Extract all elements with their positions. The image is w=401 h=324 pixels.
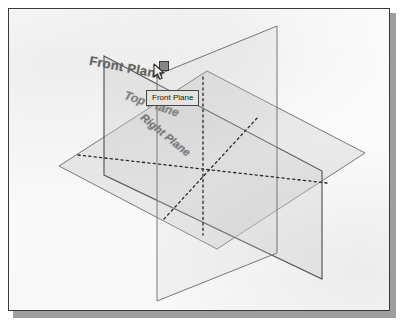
plane-tooltip: Front Plane — [146, 90, 199, 106]
planes-scene — [9, 9, 390, 311]
plane-right[interactable] — [157, 26, 277, 301]
cad-viewport[interactable]: Front Plane Top Plane Right Plane Front … — [9, 9, 389, 310]
arrow-cursor-icon — [153, 63, 167, 81]
cad-viewport-frame: Front Plane Top Plane Right Plane Front … — [8, 8, 390, 311]
screenshot-root: Front Plane Top Plane Right Plane Front … — [0, 0, 401, 324]
plane-right-surface[interactable] — [157, 26, 277, 301]
